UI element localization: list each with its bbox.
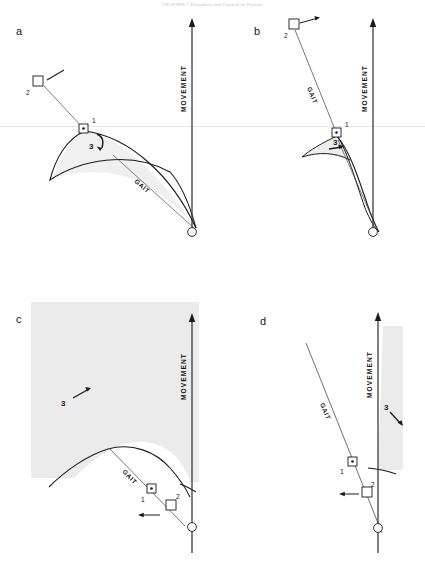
- panel-d-marker-2: [362, 487, 372, 497]
- panel-d-marker-1-dot: [351, 460, 354, 463]
- panel-d-graphics: 1 2 3 GAIT MOVEMENT: [0, 0, 425, 566]
- panel-d-direction-arrowhead: [339, 492, 345, 496]
- panel-d-label-3: 3: [384, 403, 389, 412]
- figure-root: CHAPTER 7 Dynamics and Control of Postur…: [0, 0, 425, 566]
- panel-d-shaded-region: [378, 326, 403, 470]
- panel-d-label-1: 1: [340, 468, 344, 475]
- panel-d-label-movement: MOVEMENT: [366, 351, 373, 398]
- panel-d-origin-circle: [374, 524, 383, 533]
- panel-d-label-2: 2: [371, 481, 375, 488]
- panel-d-movement-arrowhead: [375, 312, 381, 321]
